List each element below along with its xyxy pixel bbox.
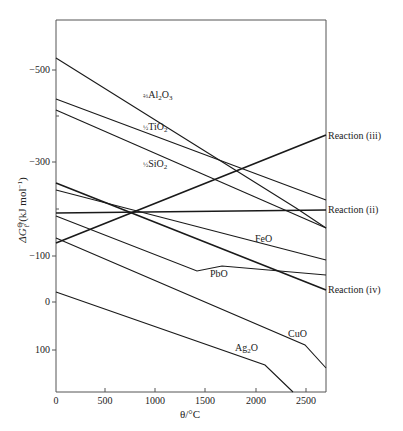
y-title-close: ) [16,177,29,181]
x-tick-label: 500 [98,395,113,406]
series-lines [56,58,326,392]
line-cuo [56,238,326,368]
label-reaction-iii: Reaction (iii) [328,130,381,142]
label-tio2: ½TiO2 [143,121,168,134]
label-cuo: CuO [288,328,307,339]
x-tick-label: 0 [54,395,59,406]
y-title-rest: /(kJ mol [16,189,29,225]
label-sio2: ½SiO2 [143,158,168,171]
y-tick-labels: −500 −300 −100 0 100 [29,64,50,355]
line-al2o3 [56,58,326,228]
line-reaction-iii [56,135,326,243]
line-reaction-iv [56,183,326,290]
label-feo: FeO [255,233,272,244]
svg-text:ΔG⊖f/(kJ mol−1): ΔG⊖f/(kJ mol−1) [16,177,31,244]
y-axis-title: ΔG⊖f/(kJ mol−1) [16,177,31,244]
x-tick-label: 1500 [195,395,215,406]
gibbs-energy-chart: −500 −300 −100 0 100 0 500 1000 1500 200… [0,0,403,431]
y-tick-label: −100 [29,250,50,261]
x-tick-label: 2000 [246,395,266,406]
line-reaction-ii [56,210,326,213]
x-tick-label: 2500 [296,395,316,406]
label-ag2o: Ag2O [235,342,258,355]
label-al2o3: ⅔Al2O3 [143,89,173,102]
label-reaction-ii: Reaction (ii) [328,204,378,216]
line-tio2 [56,99,326,200]
y-tick-label: −300 [29,156,50,167]
x-tick-labels: 0 500 1000 1500 2000 2500 [54,395,317,406]
y-tick-label: 100 [35,344,50,355]
y-tick-label: −500 [29,64,50,75]
y-title-main: ΔG [16,228,28,243]
line-feo [56,190,326,260]
x-ticks [105,388,306,392]
x-tick-label: 1000 [145,395,165,406]
label-reaction-iv: Reaction (iv) [328,284,380,296]
x-axis-title: θ/°C [180,408,200,420]
label-pbo: PbO [210,268,228,279]
y-tick-label: 0 [45,296,50,307]
